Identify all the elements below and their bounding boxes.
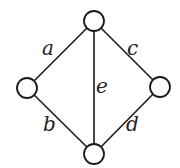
edge-b (27, 88, 94, 154)
edge-label-b: b (43, 112, 56, 136)
node-top (84, 11, 104, 31)
node-left (17, 78, 37, 98)
edge-label-c: c (127, 36, 138, 60)
edge-label-e: e (96, 74, 108, 98)
edge-label-d: d (126, 112, 139, 136)
node-right (150, 77, 170, 97)
edge-a (27, 21, 94, 88)
graph-diagram: abcde (0, 0, 180, 168)
edge-label-a: a (42, 36, 54, 60)
node-bottom (84, 144, 104, 164)
